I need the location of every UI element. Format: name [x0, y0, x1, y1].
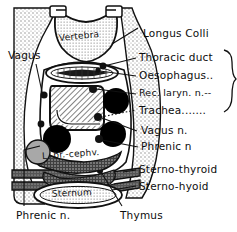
label-sterno-thyroid: Sterno-thyroid: [139, 164, 217, 175]
label-longus-colli: Longus Colli: [143, 28, 209, 39]
label-trachea: Trachea.......: [139, 105, 206, 116]
label-rec-laryn-n: Rec. laryn. n.--: [139, 88, 211, 98]
label-sternum: Sternum: [52, 188, 92, 198]
oesophagus-shape: [46, 63, 118, 83]
anatomy-figure: Longus Colli Thoracic duct Oesophagus.. …: [0, 0, 237, 232]
label-phrenic-n-left: Phrenic n.: [16, 210, 70, 221]
label-vagus-n: Vagus n.: [141, 125, 188, 136]
label-vagus-left: Vagus: [8, 50, 41, 61]
label-sterno-hyoid: Sterno-hyoid: [139, 181, 209, 192]
leader-vagus-left: [36, 64, 42, 92]
label-oesophagus: Oesophagus..: [139, 70, 213, 81]
label-phrenic-n-right: Phrenic n: [141, 141, 192, 152]
label-brace: [224, 50, 236, 112]
trachea-shape: [50, 86, 104, 130]
label-thymus: Thymus: [120, 210, 163, 221]
label-thoracic-duct: Thoracic duct: [139, 52, 213, 63]
